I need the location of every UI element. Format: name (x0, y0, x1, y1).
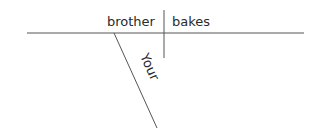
modifier-word: Your (137, 50, 163, 83)
sentence-diagram: brother bakes Your (0, 0, 327, 136)
subject-word: brother (107, 14, 156, 29)
verb-word: bakes (172, 14, 210, 29)
